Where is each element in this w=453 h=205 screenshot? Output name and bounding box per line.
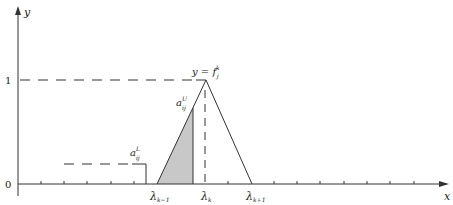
x-axis-arrow-icon (439, 181, 449, 187)
y-axis-label: y (23, 6, 31, 19)
a-lower-label: aLij (130, 145, 140, 162)
lambda-k-label: λk (200, 190, 212, 203)
y-axis-arrow-icon (15, 6, 21, 15)
fuzzy-membership-diagram: y x 0 1 y = fkj aUij aLij λk−1 λk λk+1 (0, 0, 453, 205)
peak-label: y = fkj (191, 64, 220, 80)
lambda-k-plus-1-label: λk+1 (245, 190, 265, 203)
x-axis-label: x (444, 190, 451, 203)
lambda-k-minus-1-label: λk−1 (149, 190, 169, 203)
y-one-label: 1 (5, 75, 11, 86)
origin-label: 0 (5, 179, 11, 190)
a-upper-label: aUij (176, 95, 188, 112)
